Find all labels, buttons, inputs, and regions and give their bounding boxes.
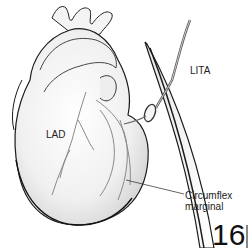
label-circumflex-marginal: Circumflex marginal bbox=[185, 190, 232, 212]
label-circumflex-line1: Circumflex bbox=[185, 190, 232, 201]
label-lita: LITA bbox=[190, 65, 210, 76]
label-circumflex-line2: marginal bbox=[185, 201, 232, 212]
page-number: 16 bbox=[212, 220, 245, 248]
label-lad: LAD bbox=[46, 129, 65, 140]
heart bbox=[12, 29, 148, 225]
